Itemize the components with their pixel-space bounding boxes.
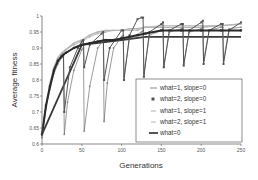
legend-item-what1-slope1: what=1, slope=1 [151, 107, 207, 115]
data-point-marker [240, 29, 242, 31]
data-point-marker [63, 111, 65, 113]
data-point-marker [162, 21, 164, 23]
data-point-marker [103, 79, 105, 81]
data-point-marker [89, 85, 91, 87]
data-point-marker [83, 66, 85, 68]
data-point-marker [144, 33, 146, 35]
data-point-marker [182, 23, 184, 25]
data-point-marker [45, 105, 47, 107]
data-point-marker [136, 34, 138, 36]
data-point-marker [106, 82, 108, 84]
data-point-marker [160, 29, 162, 31]
x-tick-label: 150 [157, 147, 166, 153]
data-point-marker [163, 66, 165, 68]
y-tick-label: 0.65 [29, 125, 39, 131]
y-tick-label: 0.75 [29, 93, 39, 99]
data-point-marker [73, 69, 75, 71]
data-point-marker [81, 44, 83, 46]
data-point-marker [69, 66, 71, 68]
data-point-marker [129, 29, 131, 31]
y-tick-label: 0.9 [32, 45, 39, 51]
data-point-marker [220, 29, 222, 31]
data-point-marker [102, 31, 104, 33]
data-point-marker [200, 25, 202, 27]
data-point-marker [83, 130, 85, 132]
y-tick-label: 0.7 [32, 109, 39, 115]
legend-marker-icon [152, 98, 155, 101]
data-point-marker [143, 76, 145, 78]
y-tick-label: 0.95 [29, 29, 39, 35]
data-point-marker [123, 79, 125, 81]
legend-item-what2-slope0: what=2, slope=0 [152, 95, 207, 103]
data-point-marker [222, 63, 224, 65]
data-point-marker [57, 60, 59, 62]
x-tick-label: 0 [41, 147, 44, 153]
legend-label: what=1, slope=1 [159, 107, 207, 115]
data-point-marker [142, 17, 144, 19]
y-axis-title: Average fitness [10, 53, 19, 108]
data-point-marker [183, 65, 185, 67]
y-ticks: 0.60.650.70.750.80.850.90.951 [29, 13, 42, 147]
legend-label: what=0 [159, 129, 181, 136]
y-tick-label: 0.6 [32, 141, 39, 147]
legend: what=1, slope=0 what=2, slope=0 what=1, … [136, 79, 242, 142]
data-point-marker [103, 121, 105, 123]
data-point-marker [128, 36, 130, 38]
legend-label: what=2, slope=1 [159, 118, 207, 126]
data-point-marker [222, 23, 224, 25]
x-tick-label: 50 [79, 147, 85, 153]
data-point-marker [73, 47, 75, 49]
x-tick-label: 100 [117, 147, 126, 153]
x-ticks: 050100150200250 [41, 144, 246, 153]
data-point-marker [200, 29, 202, 31]
x-tick-label: 250 [237, 147, 246, 153]
data-point-marker [105, 39, 107, 41]
data-point-marker [49, 85, 51, 87]
legend-label: what=1, slope=0 [159, 84, 207, 92]
data-point-marker [137, 29, 139, 31]
data-point-marker [137, 18, 139, 20]
data-point-marker [113, 39, 115, 41]
x-tick-label: 200 [197, 147, 206, 153]
data-point-marker [89, 42, 91, 44]
y-tick-label: 0.8 [32, 77, 39, 83]
data-point-marker [240, 26, 242, 28]
data-point-marker [66, 101, 68, 103]
data-point-marker [82, 39, 84, 41]
data-point-marker [122, 29, 124, 31]
y-tick-label: 1 [36, 13, 39, 19]
x-axis-title: Generations [119, 161, 163, 170]
data-point-marker [109, 47, 111, 49]
y-tick-label: 0.85 [29, 61, 39, 67]
data-point-marker [53, 69, 55, 71]
fitness-chart: 0.60.650.70.750.80.850.90.951 0501001502… [0, 0, 258, 180]
data-point-marker [61, 55, 63, 57]
data-point-marker [63, 133, 65, 135]
data-point-marker [180, 29, 182, 31]
legend-item-what2-slope1: what=2, slope=1 [151, 118, 207, 126]
data-point-marker [203, 63, 205, 65]
data-point-marker [65, 52, 67, 54]
data-point-marker [97, 41, 99, 43]
data-point-marker [202, 20, 204, 22]
data-point-marker [105, 31, 107, 33]
data-point-marker [121, 37, 123, 39]
data-point-marker [240, 21, 242, 23]
legend-label: what=2, slope=0 [159, 95, 207, 103]
